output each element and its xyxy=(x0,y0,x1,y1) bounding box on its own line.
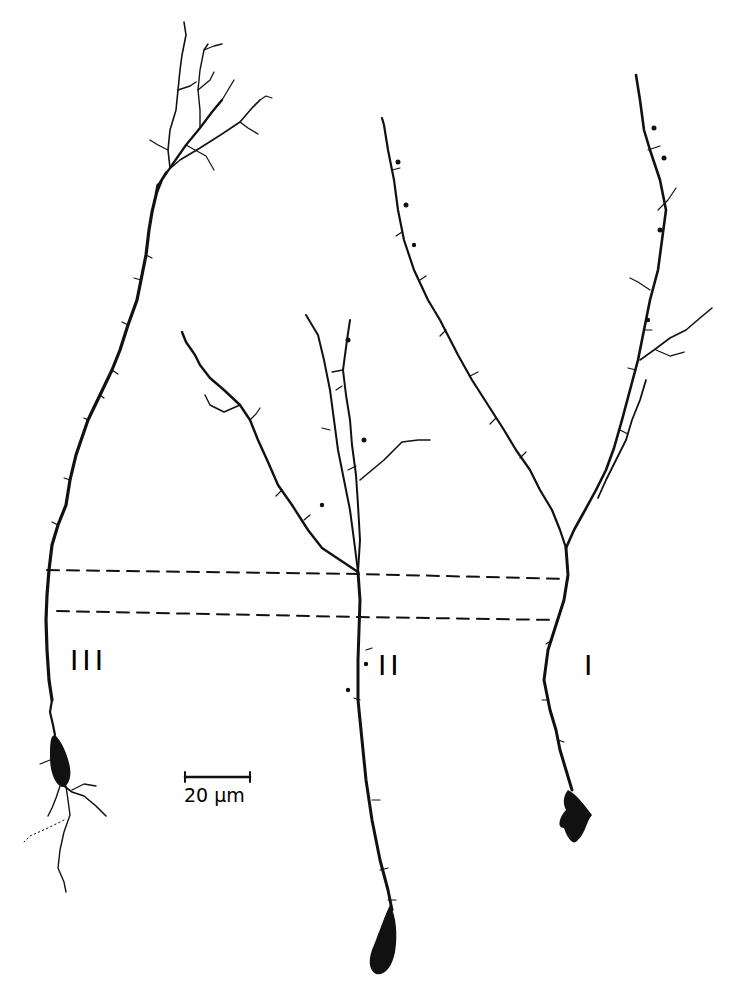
dashed-boundary-lines xyxy=(47,570,568,620)
neuron-II-drawing xyxy=(182,315,430,974)
scale-bar-label: 20 µm xyxy=(184,786,245,805)
neuron-I-label: I xyxy=(584,650,596,680)
neuron-I-drawing xyxy=(320,75,712,842)
neuron-III-label: III xyxy=(70,645,107,675)
neuron-III-drawing xyxy=(24,22,272,892)
neuron-tracings xyxy=(0,0,734,989)
neuron-drawing-figure: III II I 20 µm xyxy=(0,0,734,989)
neuron-II-label: II xyxy=(378,650,403,680)
upper-dashed-line xyxy=(47,570,568,579)
lower-dashed-line xyxy=(57,611,558,620)
scale-bar xyxy=(185,772,250,782)
